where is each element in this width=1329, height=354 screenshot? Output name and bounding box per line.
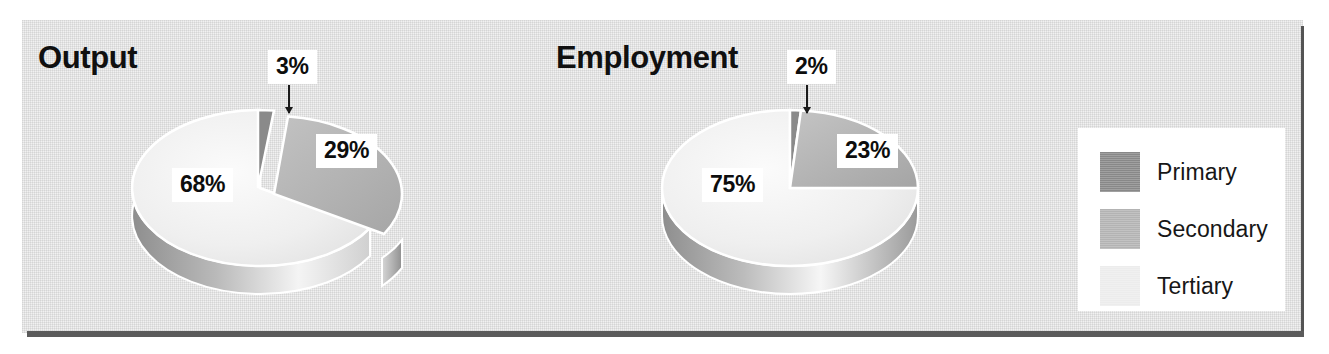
pie-output-label-secondary: 29% [316,134,377,168]
figure-root: Output [0,0,1329,354]
pie-output-leader-primary [288,85,290,113]
pie-employment-leader-primary [806,85,808,113]
legend-label-tertiary: Tertiary [1157,273,1233,300]
pie-employment-label-tertiary: 75% [702,168,763,202]
legend-swatch-tertiary [1100,266,1140,306]
legend-swatch-secondary [1100,209,1140,249]
legend-label-primary: Primary [1157,159,1237,186]
pie-output-wall-secondary [382,240,402,286]
pie-output-label-tertiary: 68% [172,168,233,202]
legend: Primary Secondary Tertiary [1078,128,1285,311]
legend-item-primary: Primary [1100,148,1285,196]
legend-label-secondary: Secondary [1157,216,1268,243]
legend-swatch-primary [1100,152,1140,192]
pie-employment-label-secondary: 23% [837,134,898,168]
legend-item-secondary: Secondary [1100,205,1285,253]
pie-chart-output [110,88,430,296]
pie-output-svg [110,88,430,296]
panel-right-border [1301,26,1304,337]
pie-output-label-primary: 3% [268,50,317,84]
pie-chart-employment [640,88,960,296]
chart-title-employment: Employment [556,40,738,76]
panel-bottom-border [27,331,1304,337]
chart-title-output: Output [38,40,137,76]
pie-employment-label-primary: 2% [787,50,836,84]
pie-employment-svg [640,88,960,296]
pie-output-slice-primary [258,110,274,188]
legend-item-tertiary: Tertiary [1100,262,1285,310]
